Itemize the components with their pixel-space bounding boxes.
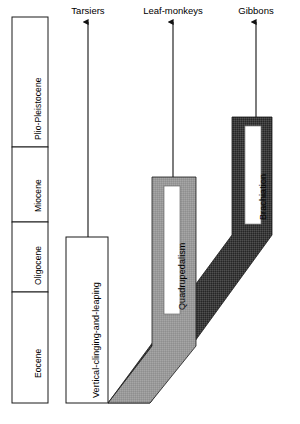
evolution-diagram-svg bbox=[0, 0, 300, 424]
epoch-label-eocene: Eocene bbox=[34, 349, 43, 378]
epoch-label-miocene: Miocene bbox=[34, 179, 43, 212]
epoch-label-oligocene: Oligocene bbox=[34, 246, 43, 285]
locomotion-label-brachiation: Brachiation bbox=[259, 174, 268, 220]
lineage-label-tarsiers: Tarsiers bbox=[71, 6, 104, 16]
locomotion-label-quadrupedalism: Quadrupedalism bbox=[178, 243, 187, 310]
lineage-label-gibbons: Gibbons bbox=[238, 6, 273, 16]
epoch-label-plio-pleistocene: Plio-Pleistocene bbox=[34, 77, 43, 140]
lineage-label-leaf-monkeys: Leaf-monkeys bbox=[143, 6, 203, 16]
vertical-clinging-box bbox=[66, 237, 108, 403]
locomotion-label-vertical-clinging-and-leaping: Vertical-clinging-and-leaping bbox=[92, 282, 101, 398]
diagram-canvas: Tarsiers Leaf-monkeys Gibbons Plio-Pleis… bbox=[0, 0, 300, 424]
